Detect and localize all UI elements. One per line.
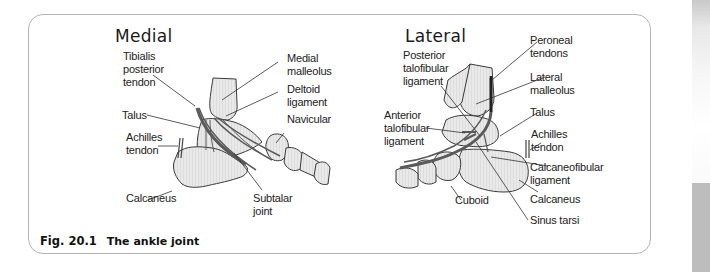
label-lateral-malleolus: Lateral malleolus — [530, 71, 575, 97]
label-subtalar-joint: Subtalar joint — [253, 192, 292, 218]
medial-title: Medial — [115, 26, 173, 46]
figure-number: Fig. 20.1 — [40, 234, 97, 248]
calcaneus-bone-lateral — [459, 149, 529, 192]
label-cuboid: Cuboid — [455, 194, 489, 207]
lateral-title: Lateral — [405, 26, 466, 46]
label-deltoid-ligament: Deltoid ligament — [287, 83, 327, 109]
label-calcaneus-lateral: Calcaneus — [530, 193, 580, 206]
label-calcaneofibular-ligament: Calcaneofibular ligament — [530, 161, 603, 187]
label-tibialis-posterior-tendon: Tibialis posterior tendon — [123, 50, 164, 89]
label-anterior-talofibular-ligament: Anterior talofibular ligament — [384, 109, 430, 148]
ankle-illustration — [0, 0, 710, 272]
label-posterior-talofibular-ligament: Posterior talofibular ligament — [403, 49, 449, 88]
label-peroneal-tendons: Peroneal tendons — [530, 34, 572, 60]
figure-caption: Fig. 20.1The ankle joint — [40, 234, 199, 248]
label-talus-lateral: Talus — [530, 106, 555, 119]
label-achilles-tendon-lateral: Achilles tendon — [531, 128, 567, 154]
label-navicular: Navicular — [287, 113, 331, 126]
label-achilles-tendon-medial: Achilles tendon — [126, 131, 162, 157]
figure-caption-text: The ankle joint — [107, 235, 199, 248]
label-sinus-tarsi: Sinus tarsi — [530, 214, 579, 227]
label-talus-medial: Talus — [122, 109, 147, 122]
label-medial-malleolus: Medial malleolus — [287, 52, 332, 78]
label-calcaneus-medial: Calcaneus — [126, 192, 176, 205]
